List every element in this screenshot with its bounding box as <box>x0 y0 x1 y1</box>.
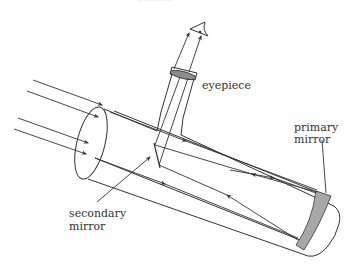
primary-label-line2: mirror <box>294 133 331 146</box>
incoming-ray-3 <box>18 118 88 143</box>
telescope-diagram: ············ <box>0 0 354 269</box>
ray-to-eye-1 <box>174 33 189 69</box>
incoming-ray-4 <box>14 129 86 154</box>
ray-to-eye-2 <box>189 36 201 72</box>
tube-top-edge <box>104 109 161 131</box>
ray-upper2-cont <box>274 178 316 193</box>
ray-upper-to-primary <box>110 112 186 141</box>
primary-leader <box>322 140 326 193</box>
ray-to-eyepiece-1 <box>155 77 180 145</box>
ray-lower-reflected-cont <box>159 165 227 195</box>
secondary-label-line1: secondary <box>69 207 127 220</box>
primary-mirror <box>296 191 331 250</box>
tube-opening <box>68 104 113 183</box>
secondary-leader <box>97 157 150 202</box>
ray-lower-cont <box>165 184 298 238</box>
ray-lower-to-primary <box>95 158 165 184</box>
eyepiece-label: eyepiece <box>202 79 251 92</box>
incoming-ray-1 <box>33 80 102 105</box>
eye-icon <box>190 22 208 36</box>
ray-lower-reflected <box>227 195 298 240</box>
secondary-label-line2: mirror <box>69 220 106 233</box>
eye-pupil <box>199 31 202 34</box>
tube-inner-bottom <box>95 158 300 240</box>
eyepiece-lens <box>170 68 197 81</box>
incoming-ray-2 <box>27 91 98 117</box>
clipped-caption: ············ <box>138 0 172 6</box>
ray-upper-reflected <box>252 174 317 192</box>
ray-upper-cont <box>186 141 317 190</box>
tube-inner-top <box>114 111 320 193</box>
